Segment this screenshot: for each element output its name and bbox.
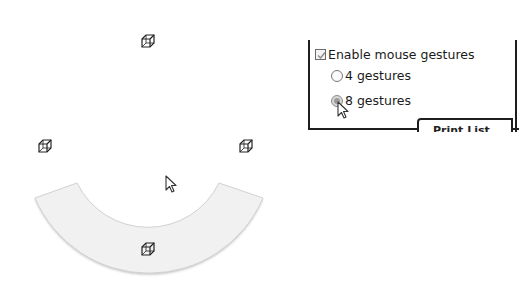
arrow-pointer-icon	[337, 101, 351, 121]
radio-4-gestures[interactable]: 4 gestures	[331, 68, 411, 83]
cube-icon[interactable]	[238, 138, 254, 154]
panel-border	[515, 40, 517, 132]
cube-icon[interactable]	[140, 33, 156, 49]
arrow-pointer-icon	[165, 175, 179, 195]
radio-label: 4 gestures	[345, 68, 411, 83]
enable-mouse-gestures-checkbox[interactable]: Enable mouse gestures	[315, 47, 475, 62]
mouse-gesture-options-panel: Enable mouse gestures 4 gestures 8 gestu…	[308, 40, 509, 130]
print-list-button[interactable]: Print List	[417, 118, 513, 132]
enable-mouse-gestures-label: Enable mouse gestures	[328, 47, 475, 62]
radio-label: 8 gestures	[345, 93, 411, 108]
checkmark-icon	[316, 50, 327, 61]
checkbox-box[interactable]	[315, 49, 326, 60]
mouse-gesture-ring	[0, 0, 300, 286]
print-list-label: Print List	[433, 124, 490, 132]
cube-icon[interactable]	[37, 138, 53, 154]
radio-button[interactable]	[331, 70, 343, 82]
cube-icon[interactable]	[140, 241, 156, 257]
